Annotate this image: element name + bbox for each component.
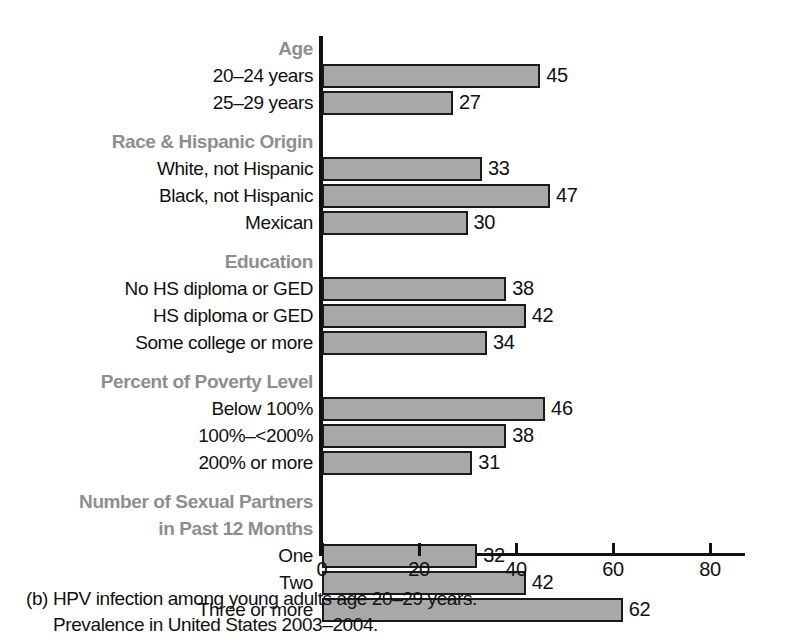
bar-row-below-100: Below 100%46 [0,396,792,423]
bar [322,211,468,235]
bar [322,64,540,88]
x-axis-tick [515,543,518,556]
figure-caption: (b) HPV infection among young adults age… [0,586,792,638]
bar-row-100-200: 100%–<200%38 [0,423,792,450]
bar-row-25-29-years: 25–29 years27 [0,90,792,117]
group-header-label-line2: in Past 12 Months [158,516,313,543]
bar-row-label: 20–24 years [213,63,313,90]
bar-row-black-not-hispanic: Black, not Hispanic47 [0,183,792,210]
bar-row-no-hs-diploma-or-ged: No HS diploma or GED38 [0,276,792,303]
bar-row-label: Some college or more [135,330,313,357]
bar-row-label: Mexican [245,210,313,237]
bar-row-20-24-years: 20–24 years45 [0,63,792,90]
x-axis-tick-label: 40 [486,558,546,581]
bar-value-label: 27 [459,90,481,117]
plot-area: Age20–24 years4525–29 years27Race & Hisp… [0,0,792,560]
caption-line-2: Prevalence in United States 2003–2004. [0,612,792,638]
bar-value-label: 38 [512,276,534,303]
bar [322,451,472,475]
bar [322,184,550,208]
group-header-number-of-sexual-partners: Number of Sexual Partners [0,489,792,516]
bar-row-label: Black, not Hispanic [159,183,313,210]
bar-row-white-not-hispanic: White, not Hispanic33 [0,156,792,183]
group-header-race-hispanic-origin: Race & Hispanic Origin [0,129,792,156]
caption-line-1: (b) HPV infection among young adults age… [0,586,792,612]
bar-row-label: HS diploma or GED [153,303,313,330]
bar-value-label: 33 [488,156,510,183]
group-header-label: Age [278,36,313,63]
bar [322,304,526,328]
x-axis-tick [418,543,421,556]
bar [322,157,482,181]
group-header-percent-of-poverty-level: Percent of Poverty Level [0,369,792,396]
bar-row-label: White, not Hispanic [157,156,313,183]
group-header-label: Race & Hispanic Origin [112,129,313,156]
x-axis-tick-label: 80 [680,558,740,581]
bar-row-label: 100%–<200% [198,423,313,450]
bar-row-hs-diploma-or-ged: HS diploma or GED42 [0,303,792,330]
x-axis-tick [321,543,324,556]
group-header-education: Education [0,249,792,276]
bar-row-mexican: Mexican30 [0,210,792,237]
group-header-age: Age [0,36,792,63]
x-axis-tick-label: 20 [389,558,449,581]
bar-row-some-college-or-more: Some college or more34 [0,330,792,357]
hpv-prevalence-bar-chart: Age20–24 years4525–29 years27Race & Hisp… [0,0,792,638]
bar-value-label: 46 [551,396,573,423]
bar-value-label: 47 [556,183,578,210]
bar [322,91,453,115]
bar-row-label: No HS diploma or GED [125,276,313,303]
bar [322,397,545,421]
bar [322,277,506,301]
bar-value-label: 38 [512,423,534,450]
x-axis-tick [612,543,615,556]
x-axis-tick-label: 0 [292,558,352,581]
group-header-number-of-sexual-partners-line2: in Past 12 Months [0,516,792,543]
x-axis-tick-label: 60 [583,558,643,581]
group-header-label: Percent of Poverty Level [101,369,313,396]
bar [322,424,506,448]
group-header-label: Education [225,249,313,276]
bar-row-200-or-more: 200% or more31 [0,450,792,477]
group-header-label: Number of Sexual Partners [79,489,313,516]
bar-row-label: Below 100% [211,396,313,423]
bar-value-label: 34 [493,330,515,357]
x-axis-tick [709,543,712,556]
bar-value-label: 42 [532,303,554,330]
bar-row-label: 200% or more [198,450,313,477]
bar-value-label: 31 [478,450,500,477]
bar-value-label: 45 [546,63,568,90]
bar-row-label: 25–29 years [213,90,313,117]
bar-value-label: 30 [474,210,496,237]
bar [322,331,487,355]
